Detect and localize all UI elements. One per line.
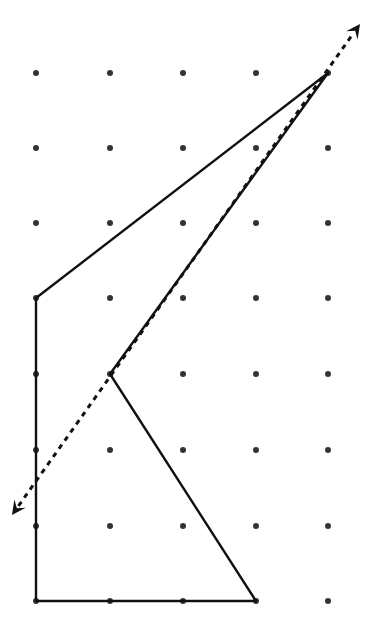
grid-dot <box>253 70 259 76</box>
grid-dot <box>253 220 259 226</box>
grid-dot <box>253 145 259 151</box>
grid-dot <box>180 447 186 453</box>
grid-dot <box>180 371 186 377</box>
grid-dot <box>180 523 186 529</box>
grid-dot <box>325 598 331 604</box>
grid-dot <box>33 145 39 151</box>
grid-dot <box>325 447 331 453</box>
grid-dot <box>253 447 259 453</box>
grid-dot <box>180 220 186 226</box>
grid-dot <box>180 145 186 151</box>
grid-dot <box>107 220 113 226</box>
arrowhead-top-icon <box>346 24 360 39</box>
grid-dot <box>325 523 331 529</box>
grid-dot <box>253 371 259 377</box>
grid-dot <box>33 220 39 226</box>
grid-dot <box>253 295 259 301</box>
grid-dot <box>180 295 186 301</box>
grid-dot <box>107 70 113 76</box>
grid-dot <box>107 523 113 529</box>
grid-dots <box>33 70 331 604</box>
grid-dot <box>325 145 331 151</box>
grid-dot <box>253 523 259 529</box>
grid-dot <box>33 70 39 76</box>
grid-dot <box>325 220 331 226</box>
arrowhead-bottom-icon <box>12 500 26 515</box>
grid-dot <box>180 70 186 76</box>
grid-dot <box>107 447 113 453</box>
grid-dot <box>107 295 113 301</box>
polygon-shape <box>36 73 328 601</box>
grid-dot <box>325 371 331 377</box>
grid-dot <box>107 145 113 151</box>
diagram-svg <box>0 0 368 621</box>
grid-dot <box>325 295 331 301</box>
dot-grid-diagram <box>0 0 368 621</box>
